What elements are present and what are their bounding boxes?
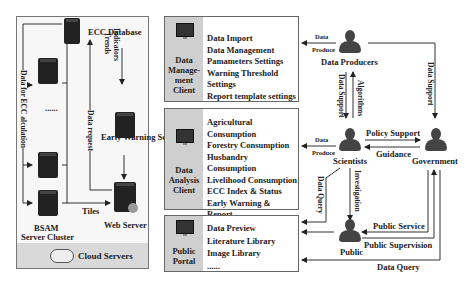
client-name-line: Public xyxy=(165,246,203,256)
monitor-icon xyxy=(176,220,194,234)
algorithms-label: Algorithms xyxy=(356,80,364,116)
cluster-ellipsis: ...... xyxy=(45,104,58,113)
public-service-label: Public Service xyxy=(373,222,425,231)
data-analysis-client: Data Analysis Client Agricultural Consum… xyxy=(164,108,299,210)
data-support-government-label: Data Support xyxy=(426,62,434,106)
public-label: Public xyxy=(340,248,363,257)
client-name-line: Client xyxy=(165,185,203,195)
tiles-label: Tiles xyxy=(82,207,99,216)
data-producers-person-icon xyxy=(339,30,361,54)
guidance-label: Guidance xyxy=(376,150,411,159)
investigation-label: Investigation xyxy=(353,170,361,212)
data-support-label: Data Support xyxy=(337,74,345,118)
client-item: Literature Library xyxy=(207,235,276,248)
trends-label: Trends xyxy=(103,32,111,52)
client-item: ECC Index & Status xyxy=(207,186,298,198)
client-item: Forestry Consumption xyxy=(207,140,298,152)
client-item: Pamameters Settings xyxy=(207,56,298,68)
monitor-icon xyxy=(176,23,194,37)
client-item: Agricultural Consumption xyxy=(207,117,298,140)
government-person-icon xyxy=(425,128,447,152)
client-name-line: Portal xyxy=(165,256,203,266)
scientists-label: Scientists xyxy=(333,157,367,166)
client-name-line: Data xyxy=(165,55,203,65)
data-management-client: Data Manage- ment Client Data Import Dat… xyxy=(164,16,299,102)
client-name-line: Data xyxy=(165,165,203,175)
web-server-label: Web Server xyxy=(104,221,147,230)
public-supervision-label: Public Supervision xyxy=(364,241,432,250)
client-item: Husbandry Consumption xyxy=(207,152,298,175)
client-item: Warning Threshold Settings xyxy=(207,68,298,91)
data-query-label: Data Query xyxy=(316,176,324,214)
data-produce-label: Produce xyxy=(312,47,335,54)
data-for-ecc-label: Data for ECC alculation xyxy=(19,70,27,148)
client-item: Data Import xyxy=(207,33,298,45)
client-name-line: ment xyxy=(165,75,203,85)
data-produce-label: Data xyxy=(315,34,328,41)
bsam-server-icon xyxy=(38,152,58,178)
client-name-line: Client xyxy=(165,85,203,95)
bsam-server-icon xyxy=(38,58,58,84)
cloud-icon xyxy=(50,249,74,263)
data-producers-label: Data Producers xyxy=(321,58,378,67)
public-portal-client: Public Portal Data Preview Literature Li… xyxy=(164,215,299,272)
ecc-database-icon xyxy=(64,18,80,44)
client-item: Livelihood Consumption xyxy=(207,175,298,187)
policy-support-label: Policy Support xyxy=(366,129,420,138)
data-query-government-label: Data Query xyxy=(377,263,420,272)
scientists-person-icon xyxy=(339,128,361,152)
data-produce-label: Data xyxy=(315,137,328,144)
client-item: Image Library xyxy=(207,247,276,260)
bsam-server-icon xyxy=(38,190,58,216)
client-name-line: Manage- xyxy=(165,65,203,75)
bsam-cluster-label-2: Server Cluster xyxy=(21,233,74,242)
client-item: Report template settings xyxy=(207,91,298,103)
monitor-icon xyxy=(176,129,194,143)
indicators-label: Indicators xyxy=(112,28,120,61)
government-label: Government xyxy=(412,157,458,166)
client-item: Data Preview xyxy=(207,222,276,235)
client-name-line: Analysis xyxy=(165,175,203,185)
client-item: Data Management xyxy=(207,45,298,57)
client-item: ...... xyxy=(207,260,276,273)
data-produce-label: Produce xyxy=(312,150,335,157)
data-request-label: Data request xyxy=(86,110,94,151)
globe-icon xyxy=(128,203,138,213)
public-person-icon xyxy=(339,219,361,243)
cloud-servers-label: Cloud Servers xyxy=(78,252,133,261)
